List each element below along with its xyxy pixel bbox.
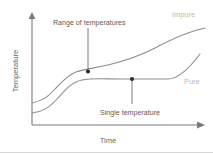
x-axis-arrow-icon: [197, 122, 205, 129]
diagram-canvas: Range of temperatures Single temperature…: [0, 0, 213, 154]
x-axis-label: Time: [100, 136, 117, 145]
heating-curve-diagram: Range of temperatures Single temperature…: [0, 0, 213, 154]
pure-curve-label: Pure: [184, 77, 200, 86]
y-axis-arrow-icon: [29, 12, 36, 19]
impure-curve-label: Impure: [172, 10, 195, 19]
impure-curve: [32, 28, 205, 103]
range-marker-dot: [86, 69, 90, 73]
range-annotation-label: Range of temperatures: [53, 19, 126, 27]
y-axis-label: Temperature: [11, 50, 20, 93]
single-marker-dot: [130, 77, 134, 81]
single-annotation-label: Single temperature: [100, 109, 160, 117]
